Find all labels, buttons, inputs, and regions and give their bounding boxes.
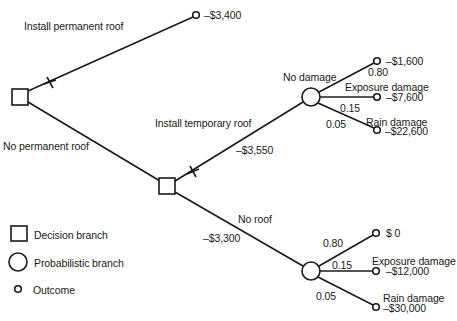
decision-node-secondary	[159, 178, 175, 194]
probability-exposure-damage-lower: 0.15	[332, 259, 352, 271]
outcome-node	[373, 230, 380, 237]
label-no-permanent-roof: No permanent roof	[3, 140, 89, 152]
value-no-damage-lower: $ 0	[386, 227, 400, 239]
probability-rain-damage-lower: 0.05	[316, 290, 336, 302]
decision-node-root	[12, 89, 28, 105]
probability-rain-damage: 0.05	[326, 118, 346, 130]
value-exposure-damage: –$7,600	[386, 91, 423, 103]
outcome-node	[374, 94, 381, 101]
legend-outcome-icon	[15, 286, 22, 293]
outcome-node	[193, 12, 200, 19]
value-permanent-roof: –$3,400	[204, 9, 241, 21]
branch-install-temporary-roof	[175, 102, 303, 181]
value-rain-damage-lower: –$30,000	[383, 302, 426, 314]
chance-node-no-roof	[302, 262, 320, 280]
label-no-roof: No roof	[238, 213, 272, 225]
value-exposure-damage-lower: –$12,000	[386, 265, 429, 277]
outcome-node	[373, 304, 380, 311]
label-install-temporary-roof: Install temporary roof	[155, 117, 251, 129]
legend-probabilistic-icon	[9, 253, 27, 271]
probability-exposure-damage: 0.15	[340, 102, 360, 114]
value-no-roof-cost: –$3,300	[203, 232, 240, 244]
value-rain-damage: –$22,600	[385, 125, 428, 137]
value-temporary-roof-cost: –$3,550	[236, 144, 273, 156]
probability-no-damage-lower: 0.80	[323, 237, 343, 249]
legend-probabilistic-label: Probabilistic branch	[34, 257, 124, 269]
label-no-damage: No damage	[283, 71, 336, 83]
value-no-damage: –$1,600	[386, 55, 423, 67]
outcome-node	[374, 58, 381, 65]
legend-decision-icon	[11, 226, 27, 241]
legend-decision-label: Decision branch	[34, 229, 108, 241]
probability-no-damage: 0.80	[368, 66, 388, 78]
branch-no-roof	[175, 192, 303, 266]
legend-outcome-label: Outcome	[33, 284, 75, 296]
outcome-node	[373, 268, 380, 275]
label-install-permanent-roof: Install permanent roof	[24, 20, 123, 32]
chance-node-temporary-roof	[302, 88, 320, 106]
